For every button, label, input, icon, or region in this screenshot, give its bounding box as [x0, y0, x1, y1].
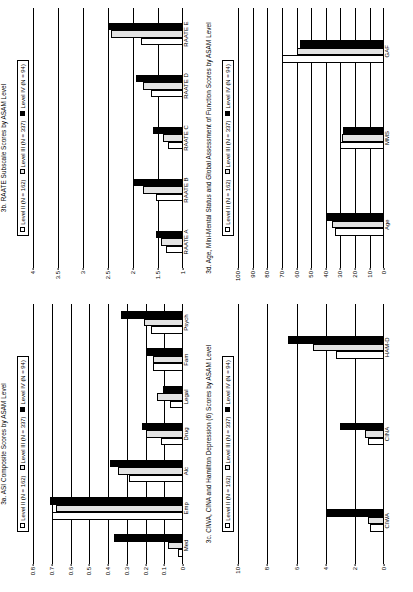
bar[interactable] [146, 348, 184, 356]
bar[interactable] [168, 142, 183, 150]
bar[interactable] [166, 246, 184, 254]
legend-3d: Level II (N = 162) Level III (N = 337) L… [216, 0, 234, 296]
bar[interactable] [143, 186, 183, 194]
bar[interactable] [370, 524, 385, 532]
grid-3b [33, 8, 183, 268]
x-axis-category-label: GAF [384, 8, 391, 95]
bar[interactable] [142, 423, 183, 431]
bar[interactable] [340, 142, 384, 150]
bar[interactable] [56, 505, 184, 513]
legend-swatch-level-iii-icon [20, 170, 25, 175]
legend-swatch-level-iv-icon [225, 111, 230, 116]
bar[interactable] [288, 336, 384, 344]
bar[interactable] [114, 534, 183, 542]
bar[interactable] [143, 82, 183, 90]
bar-groups-3c [238, 304, 384, 564]
y-tick-mark [355, 564, 356, 567]
bar-group [238, 8, 384, 95]
bar[interactable] [170, 401, 183, 409]
bar[interactable] [368, 438, 384, 446]
plot-area-3b: 11.522.533.54 [33, 6, 183, 290]
bar[interactable] [282, 55, 384, 63]
legend-swatch-level-iii-icon [20, 466, 25, 471]
bar[interactable] [340, 423, 384, 431]
legend-swatch-level-iv-icon [20, 111, 25, 116]
y-tick-label: 3 [80, 271, 86, 274]
bar[interactable] [368, 517, 384, 525]
y-tick-mark [369, 268, 370, 271]
bar-group [238, 304, 384, 391]
bar[interactable] [52, 512, 183, 520]
bar-group [33, 8, 183, 60]
legend-label-level-iii: Level III (N = 337) [224, 417, 232, 464]
y-tick-label: 90 [250, 271, 256, 278]
bar-group [33, 60, 183, 112]
bar[interactable] [336, 351, 384, 359]
bar[interactable] [163, 134, 183, 142]
plot-area-3c: 0246810 [238, 302, 384, 586]
bar[interactable] [153, 356, 183, 364]
bar[interactable] [332, 221, 385, 229]
y-tick-mark [325, 564, 326, 567]
bar[interactable] [297, 48, 385, 56]
bar[interactable] [157, 393, 183, 401]
x-axis-category-label: Legal [183, 378, 190, 415]
bar[interactable] [156, 194, 184, 202]
bar[interactable] [141, 38, 184, 46]
bar[interactable] [151, 326, 183, 334]
bar[interactable] [153, 127, 183, 135]
bar[interactable] [161, 238, 184, 246]
bar[interactable] [161, 438, 184, 446]
bar[interactable] [300, 40, 385, 48]
x-axis-category-label: Age [384, 181, 391, 268]
x-axis-category-label: HAM-D [384, 304, 391, 391]
bar[interactable] [343, 127, 384, 135]
bar[interactable] [110, 460, 183, 468]
legend-item-level-iv: Level IV (N = 94) [224, 64, 232, 115]
bar[interactable] [313, 344, 385, 352]
bar[interactable] [146, 430, 184, 438]
bar-group [33, 341, 183, 378]
bar[interactable] [151, 90, 184, 98]
bar[interactable] [342, 134, 384, 142]
bar[interactable] [168, 542, 183, 550]
bar[interactable] [365, 430, 384, 438]
bar[interactable] [335, 228, 385, 236]
x-axis-category-label: Psych [183, 304, 190, 341]
bar[interactable] [108, 23, 183, 31]
y-axis-3d: 0102030405060708090100 [238, 268, 384, 290]
bar[interactable] [129, 475, 183, 483]
bar[interactable] [326, 213, 384, 221]
y-tick-label: 0 [381, 567, 387, 570]
bar[interactable] [136, 75, 184, 83]
x-axis-category-label: RAATE D [183, 60, 190, 112]
panel-body-3d: 3d. Age, Mini-Mental Status and Global A… [205, 0, 413, 296]
panel-body-3b: 3b. RAATE Subscale Scores by ASAM Level … [0, 0, 204, 296]
chart-panel-3b: 3b. RAATE Subscale Scores by ASAM Level … [0, 0, 204, 296]
legend-item-level-iii: Level III (N = 337) [224, 417, 232, 471]
x-axis-category-label: Emp [183, 490, 190, 527]
bar[interactable] [121, 311, 183, 319]
y-tick-label: 2 [130, 271, 136, 274]
y-tick-label: 1 [180, 271, 186, 274]
y-tick-mark [145, 564, 146, 567]
bar[interactable] [50, 497, 183, 505]
bar[interactable] [153, 363, 183, 371]
y-tick-label: 10 [235, 567, 241, 574]
bar[interactable] [144, 319, 183, 327]
bar[interactable] [111, 30, 184, 38]
bar[interactable] [133, 179, 183, 187]
chart-title-3c: 3c. CIWA, CINA and Hamilton Depression (… [205, 296, 213, 592]
chart-title-3b: 3b. RAATE Subscale Scores by ASAM Level [0, 0, 8, 296]
bar[interactable] [156, 231, 184, 239]
y-tick-mark [164, 564, 165, 567]
bar-group [238, 181, 384, 268]
bar[interactable] [326, 509, 384, 517]
legend-item-level-iv: Level IV (N = 94) [19, 360, 27, 411]
legend-swatch-level-ii-icon [20, 227, 25, 232]
bar[interactable] [163, 386, 184, 394]
y-tick-label: 0.3 [124, 567, 130, 575]
y-tick-mark [58, 268, 59, 271]
y-tick-mark [83, 268, 84, 271]
bar[interactable] [118, 467, 184, 475]
